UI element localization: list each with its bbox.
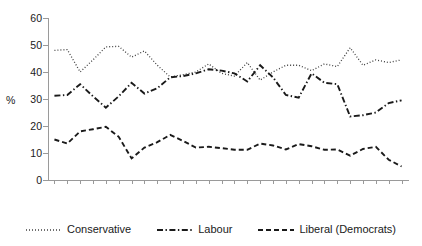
legend-item[interactable]: Conservative [26, 224, 131, 235]
legend-item[interactable]: Labour [157, 224, 232, 235]
legend-item[interactable]: Liberal (Democrats) [258, 224, 396, 235]
x-axis-tick [389, 180, 390, 184]
y-axis-tick [43, 45, 48, 46]
x-axis-tick [144, 180, 145, 184]
y-axis-tick-label: 20 [4, 121, 42, 131]
legend-label: Conservative [67, 224, 131, 235]
x-axis-tick [157, 180, 158, 184]
y-axis-tick [43, 153, 48, 154]
series-line [54, 46, 401, 80]
legend-swatch-dashed-icon [258, 226, 294, 234]
chart-legend: ConservativeLabourLiberal (Democrats) [0, 224, 422, 235]
x-axis-tick [183, 180, 184, 184]
x-axis-line [48, 180, 409, 181]
x-axis-tick [93, 180, 94, 184]
x-axis-tick [196, 180, 197, 184]
legend-swatch-dotted-icon [26, 226, 62, 234]
legend-swatch-dash-dot-icon [157, 226, 193, 234]
x-axis-tick [324, 180, 325, 184]
y-axis-tick [43, 180, 48, 181]
x-axis-tick [222, 180, 223, 184]
x-axis-tick [67, 180, 68, 184]
y-axis-tick-label: 10 [4, 148, 42, 158]
y-axis-tick [43, 18, 48, 19]
x-axis-tick [376, 180, 377, 184]
y-axis-tick [43, 72, 48, 73]
x-axis-tick [80, 180, 81, 184]
x-axis-tick [299, 180, 300, 184]
series-line [54, 65, 401, 116]
x-axis-tick [337, 180, 338, 184]
y-axis-tick [43, 126, 48, 127]
x-axis-tick [247, 180, 248, 184]
legend-label: Labour [198, 224, 232, 235]
x-axis-tick [170, 180, 171, 184]
x-axis-tick [234, 180, 235, 184]
y-axis-labels: 0102030405060 [0, 0, 42, 246]
y-axis-tick-label: 40 [4, 67, 42, 77]
x-axis-tick [286, 180, 287, 184]
x-axis-tick [260, 180, 261, 184]
x-axis-tick [363, 180, 364, 184]
line-chart: % 0102030405060 198319841985198619871989… [0, 0, 422, 246]
y-axis-tick-label: 60 [4, 13, 42, 23]
y-axis-tick [43, 99, 48, 100]
x-axis-tick [106, 180, 107, 184]
x-axis-tick [312, 180, 313, 184]
x-axis-tick [402, 180, 403, 184]
x-axis-tick [119, 180, 120, 184]
x-axis-tick [273, 180, 274, 184]
series-line [54, 127, 401, 167]
x-axis-tick [132, 180, 133, 184]
y-axis-tick-label: 30 [4, 94, 42, 104]
x-axis-tick [209, 180, 210, 184]
legend-label: Liberal (Democrats) [299, 224, 396, 235]
x-axis-tick [54, 180, 55, 184]
series-lines [48, 18, 408, 180]
y-axis-tick-label: 0 [4, 175, 42, 185]
y-axis-tick-label: 50 [4, 40, 42, 50]
x-axis-tick [350, 180, 351, 184]
plot-area [48, 18, 408, 180]
